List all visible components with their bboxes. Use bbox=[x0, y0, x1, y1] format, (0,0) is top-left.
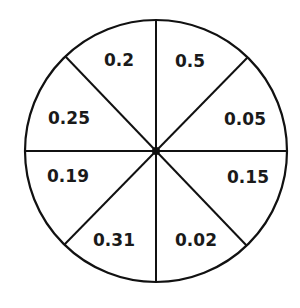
sector-label: 0.05 bbox=[224, 109, 266, 129]
sector-label: 0.19 bbox=[47, 166, 89, 186]
sector-label: 0.25 bbox=[48, 108, 90, 128]
sector-label: 0.02 bbox=[175, 230, 217, 250]
sector-label: 0.5 bbox=[175, 51, 205, 71]
spinner-diagram: 0.5 0.05 0.15 0.02 0.31 0.19 0.25 0.2 bbox=[0, 0, 300, 308]
sector-label: 0.31 bbox=[93, 230, 135, 250]
sector-label: 0.2 bbox=[104, 50, 134, 70]
center-pivot bbox=[152, 147, 160, 155]
spinner-circle-graphic bbox=[0, 0, 300, 308]
sector-label: 0.15 bbox=[227, 167, 269, 187]
